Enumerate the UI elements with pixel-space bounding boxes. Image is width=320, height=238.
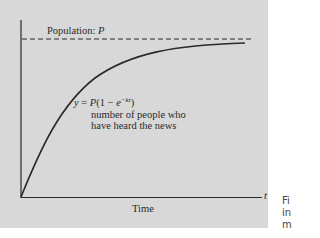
caption-fragment: Fi: [282, 196, 290, 206]
curve-description-line1: number of people who: [91, 110, 186, 121]
caption-fragment: in: [282, 208, 291, 218]
curve-description-line2: have heard the news: [91, 121, 176, 132]
population-label: Population: P: [47, 26, 104, 37]
caption-fragment: m: [282, 220, 292, 230]
x-axis-label: Time: [132, 204, 154, 215]
curve-equation: y = P(1 − e−kt): [74, 97, 134, 109]
x-axis-variable: t: [264, 191, 267, 202]
